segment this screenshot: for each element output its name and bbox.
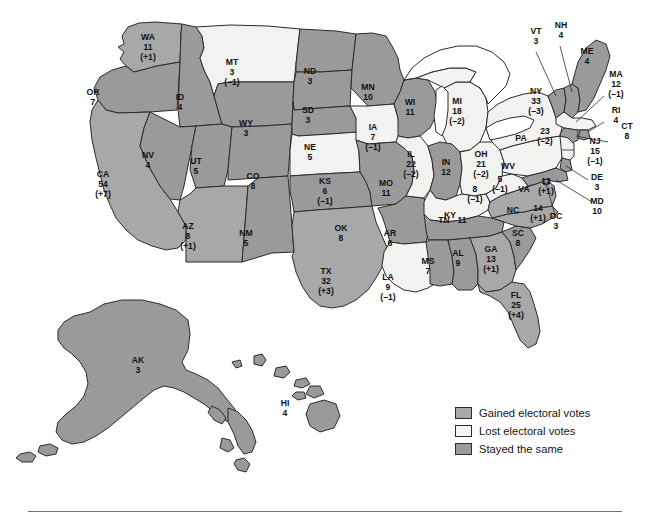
svg-text:(–1): (–1) <box>224 77 239 87</box>
state-label-NH: NH 4 <box>555 20 567 40</box>
svg-text:8: 8 <box>516 238 521 248</box>
svg-text:21: 21 <box>476 159 486 169</box>
svg-text:3: 3 <box>308 76 313 86</box>
state-HI-oahu[interactable] <box>274 366 290 378</box>
svg-text:7: 7 <box>91 97 96 107</box>
svg-text:8: 8 <box>625 131 630 141</box>
state-label-NJ: NJ 15 (–1) <box>587 136 602 166</box>
svg-text:NC: NC <box>507 205 519 215</box>
state-HI-hawaii[interactable] <box>306 400 340 432</box>
svg-text:(–2): (–2) <box>449 116 464 126</box>
svg-text:CA: CA <box>97 169 109 179</box>
state-CO[interactable] <box>228 124 292 180</box>
state-MN[interactable] <box>351 33 404 106</box>
svg-text:5: 5 <box>194 166 199 176</box>
svg-text:GA: GA <box>485 244 498 254</box>
svg-text:11: 11 <box>381 188 390 198</box>
svg-text:3: 3 <box>554 221 559 231</box>
svg-text:8: 8 <box>186 231 191 241</box>
state-WY[interactable] <box>214 82 294 127</box>
svg-text:13: 13 <box>486 254 496 264</box>
legend-item-gained: Gained electoral votes <box>455 404 590 422</box>
svg-text:12: 12 <box>441 167 451 177</box>
svg-text:54: 54 <box>98 179 108 189</box>
svg-text:8: 8 <box>473 184 478 194</box>
svg-text:(+3): (+3) <box>318 286 334 296</box>
svg-text:MA: MA <box>609 69 622 79</box>
map-legend: Gained electoral votes Lost electoral vo… <box>455 404 590 458</box>
state-AK[interactable] <box>56 300 240 444</box>
state-label-MN: MN 10 <box>361 82 374 102</box>
state-label-IN: IN 12 <box>441 157 451 177</box>
state-HI-islet[interactable] <box>232 360 242 368</box>
svg-text:(+1): (+1) <box>180 241 196 251</box>
state-TX[interactable] <box>292 206 388 308</box>
svg-text:4: 4 <box>146 160 151 170</box>
svg-text:SC: SC <box>512 228 524 238</box>
svg-text:4: 4 <box>178 102 183 112</box>
svg-text:FL: FL <box>511 290 522 300</box>
svg-text:(–3): (–3) <box>528 106 543 116</box>
svg-text:MD: MD <box>590 196 603 206</box>
svg-text:4: 4 <box>283 408 288 418</box>
svg-text:AZ: AZ <box>182 221 193 231</box>
svg-text:RI: RI <box>612 105 621 115</box>
state-HI-maui[interactable] <box>306 386 324 398</box>
svg-text:ND: ND <box>304 66 316 76</box>
svg-text:DC: DC <box>550 211 562 221</box>
state-label-RI: RI 4 <box>612 105 621 125</box>
svg-text:MI: MI <box>452 96 462 106</box>
svg-text:25: 25 <box>511 300 521 310</box>
svg-text:KS: KS <box>319 176 331 186</box>
svg-text:MT: MT <box>226 57 239 67</box>
state-HI-kauai[interactable] <box>254 354 266 366</box>
state-label-DC: DC 3 <box>550 211 562 231</box>
svg-text:7: 7 <box>426 266 431 276</box>
svg-text:23: 23 <box>540 126 550 136</box>
state-AK-aleutians-2[interactable] <box>16 452 36 462</box>
state-AK-panhandle-3[interactable] <box>234 458 250 472</box>
svg-text:18: 18 <box>452 106 462 116</box>
state-label-MD: MD 10 <box>590 196 603 216</box>
svg-text:SD: SD <box>302 105 314 115</box>
svg-text:ME: ME <box>581 46 594 56</box>
state-AK-panhandle-4[interactable] <box>220 438 234 452</box>
svg-text:11: 11 <box>405 107 414 117</box>
svg-text:32: 32 <box>321 276 331 286</box>
leader-line-md <box>556 180 592 202</box>
svg-text:VA: VA <box>518 184 529 194</box>
svg-text:LA: LA <box>382 272 393 282</box>
svg-text:OH: OH <box>475 149 488 159</box>
svg-text:IN: IN <box>442 157 451 167</box>
state-KS[interactable] <box>290 132 360 176</box>
svg-text:12: 12 <box>611 79 621 89</box>
svg-text:(+4): (+4) <box>508 310 524 320</box>
state-label-HI: HI 4 <box>281 398 290 418</box>
svg-text:9: 9 <box>456 258 461 268</box>
legend-label-gained: Gained electoral votes <box>479 407 590 419</box>
svg-text:4: 4 <box>585 56 590 66</box>
svg-text:MS: MS <box>422 256 435 266</box>
svg-text:3: 3 <box>230 67 235 77</box>
state-SD[interactable] <box>293 70 352 110</box>
svg-text:VT: VT <box>531 26 543 36</box>
svg-text:(+1): (+1) <box>140 52 156 62</box>
svg-text:HI: HI <box>281 398 290 408</box>
state-AK-aleutians-1[interactable] <box>38 444 58 456</box>
state-HI-molokai[interactable] <box>294 378 310 388</box>
svg-text:NY: NY <box>530 86 542 96</box>
svg-text:WY: WY <box>239 118 253 128</box>
svg-text:14: 14 <box>533 203 543 213</box>
svg-text:(–1): (–1) <box>587 156 602 166</box>
state-NH[interactable] <box>564 84 580 118</box>
state-HI-lanai[interactable] <box>292 392 306 400</box>
svg-text:6: 6 <box>388 238 393 248</box>
svg-text:NJ: NJ <box>590 136 601 146</box>
same-swatch-icon <box>455 443 472 455</box>
svg-text:CT: CT <box>621 121 633 131</box>
svg-text:5: 5 <box>308 152 313 162</box>
svg-text:PA: PA <box>515 133 526 143</box>
svg-text:9: 9 <box>386 282 391 292</box>
svg-text:WA: WA <box>141 32 155 42</box>
svg-text:IL: IL <box>407 149 415 159</box>
